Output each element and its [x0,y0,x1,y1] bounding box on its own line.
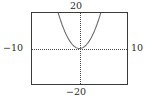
x-axis-max-label: 10 [131,43,143,53]
y-axis-min-label: −20 [0,87,152,97]
parabola-curve [32,13,127,84]
plot-frame [31,12,128,85]
parabola-path [58,13,101,48]
x-axis-min-label: −10 [3,43,23,53]
graph-figure: 20 −20 −10 10 [0,0,152,101]
y-axis-max-label: 20 [0,1,152,11]
plot-area [32,13,127,84]
